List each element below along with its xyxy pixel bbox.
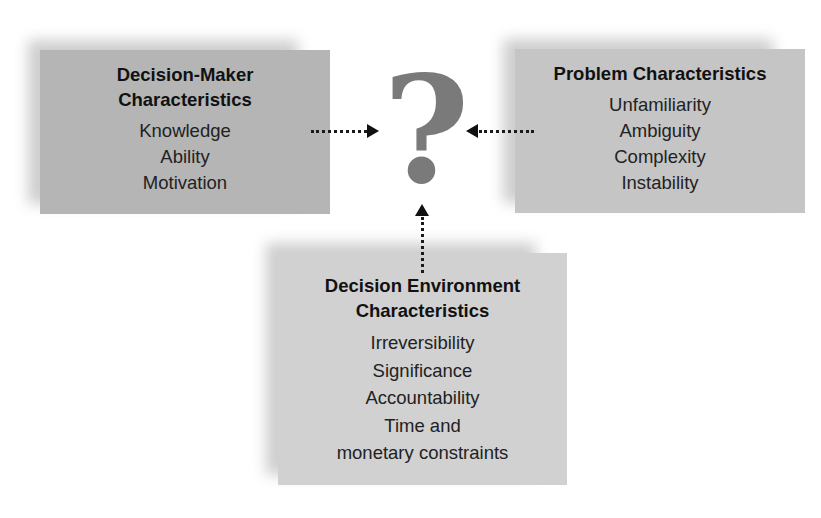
list-item: Significance bbox=[337, 357, 509, 385]
decision-maker-title: Decision-Maker Characteristics bbox=[117, 62, 254, 112]
environment-title: Decision Environment Characteristics bbox=[325, 273, 520, 323]
problem-title: Problem Characteristics bbox=[554, 61, 767, 86]
list-item: Instability bbox=[609, 170, 711, 196]
decision-maker-items: Knowledge Ability Motivation bbox=[139, 118, 231, 196]
list-item: Motivation bbox=[139, 170, 231, 196]
decision-environment-characteristics-box: Decision Environment Characteristics Irr… bbox=[278, 253, 567, 485]
dotted-arrow-line-right bbox=[479, 130, 534, 133]
problem-items: Unfamiliarity Ambiguity Complexity Insta… bbox=[609, 92, 711, 196]
arrowhead-left-icon bbox=[466, 124, 478, 138]
list-item: Time and bbox=[337, 412, 509, 440]
title-line: Characteristics bbox=[325, 298, 520, 323]
title-line: Decision Environment bbox=[325, 273, 520, 298]
dotted-arrow-line-up bbox=[421, 217, 424, 273]
environment-items: Irreversibility Significance Accountabil… bbox=[337, 329, 509, 467]
list-item: Ambiguity bbox=[609, 118, 711, 144]
arrowhead-up-icon bbox=[415, 204, 429, 216]
decision-maker-characteristics-box: Decision-Maker Characteristics Knowledge… bbox=[40, 50, 330, 214]
list-item: Accountability bbox=[337, 384, 509, 412]
list-item: Irreversibility bbox=[337, 329, 509, 357]
list-item: Complexity bbox=[609, 144, 711, 170]
list-item: Ability bbox=[139, 144, 231, 170]
list-item: Knowledge bbox=[139, 118, 231, 144]
title-line: Characteristics bbox=[117, 87, 254, 112]
problem-characteristics-box: Problem Characteristics Unfamiliarity Am… bbox=[515, 49, 805, 213]
list-item: monetary constraints bbox=[337, 439, 509, 467]
question-mark-icon: ? bbox=[383, 56, 463, 204]
arrowhead-right-icon bbox=[367, 124, 379, 138]
title-line: Decision-Maker bbox=[117, 62, 254, 87]
title-line: Problem Characteristics bbox=[554, 61, 767, 86]
list-item: Unfamiliarity bbox=[609, 92, 711, 118]
dotted-arrow-line-left bbox=[311, 130, 367, 133]
